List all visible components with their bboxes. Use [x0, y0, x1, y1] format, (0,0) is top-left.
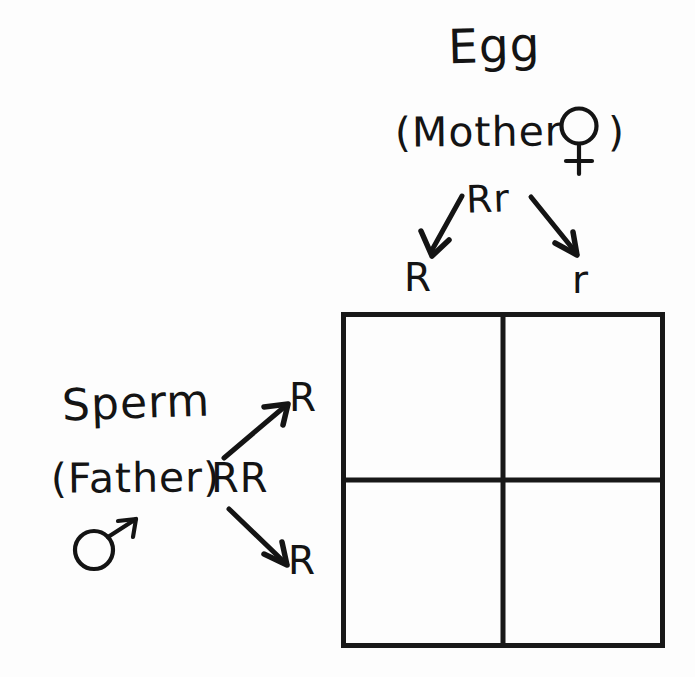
sperm-title: Sperm	[61, 378, 211, 427]
mother-label: (Mother	[395, 111, 563, 153]
egg-title: Egg	[447, 21, 541, 70]
punnett-square-diagram: Egg (Mother ) Rr R r Sperm (Father) RR R…	[0, 0, 695, 677]
sperm-allele-1: R	[289, 378, 317, 417]
egg-allele-1: R	[404, 258, 432, 297]
punnett-cell-0-1[interactable]	[503, 312, 665, 480]
punnett-cell-1-0[interactable]	[341, 480, 503, 648]
male-symbol-icon	[68, 512, 146, 574]
arrow-father-to-bottom-allele	[229, 509, 287, 565]
father-label: (Father)	[51, 457, 220, 499]
egg-allele-2: r	[572, 260, 589, 299]
female-symbol-icon	[556, 104, 602, 178]
father-genotype: RR	[211, 458, 269, 498]
arrow-mother-to-right-allele	[531, 197, 577, 255]
sperm-allele-2: R	[288, 541, 316, 580]
mother-label-close-paren: )	[608, 112, 625, 153]
punnett-grid	[341, 312, 665, 648]
arrow-father-to-top-allele	[224, 404, 288, 458]
mother-genotype: Rr	[465, 179, 510, 219]
punnett-cell-1-1[interactable]	[503, 480, 665, 648]
punnett-cell-0-0[interactable]	[341, 312, 503, 480]
arrow-mother-to-left-allele	[421, 196, 462, 256]
